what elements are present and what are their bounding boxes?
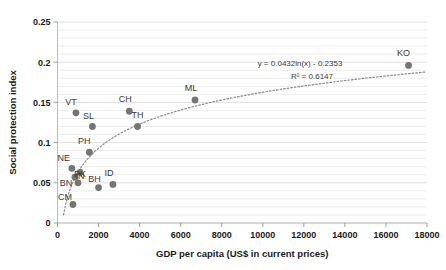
- data-point-label: CH: [119, 94, 132, 104]
- y-axis-title: Social protection index: [7, 70, 18, 175]
- y-axis-ticks: 00.050.10.150.20.25: [33, 17, 58, 228]
- data-point-label: BH: [88, 174, 101, 184]
- trendline-r2-label: R² = 0.6147: [291, 72, 334, 81]
- trendline-equation-label: y = 0.0432ln(x) - 0.2353: [258, 59, 343, 68]
- point-labels: CMPKBNINNEBHIDPHSLVTTHCHMLKO: [58, 48, 410, 201]
- data-point-label: ML: [185, 83, 198, 93]
- trendline: [64, 72, 426, 215]
- scatter-chart: 00.050.10.150.20.25 02000400060008000100…: [0, 0, 446, 270]
- y-tick-label: 0.05: [33, 178, 51, 188]
- x-tick-label: 0: [55, 230, 60, 240]
- data-point: [405, 62, 412, 69]
- x-tick-label: 4000: [130, 230, 150, 240]
- data-point-label: KO: [397, 48, 410, 58]
- x-tick-label: 10000: [250, 230, 275, 240]
- data-point: [73, 109, 80, 116]
- x-axis-title: GDP per capita (US$ in current prices): [156, 248, 328, 259]
- data-point-label: CM: [58, 192, 72, 202]
- data-point-label: NE: [58, 153, 71, 163]
- y-tick-label: 0.2: [38, 58, 51, 68]
- data-point-label: SL: [83, 111, 94, 121]
- x-tick-label: 16000: [373, 230, 398, 240]
- y-tick-label: 0.25: [33, 17, 51, 27]
- data-point-label: PH: [78, 136, 91, 146]
- chart-canvas: 00.050.10.150.20.25 02000400060008000100…: [0, 0, 446, 270]
- x-tick-label: 8000: [212, 230, 232, 240]
- x-tick-label: 6000: [171, 230, 191, 240]
- y-tick-label: 0.1: [38, 138, 51, 148]
- y-tick-label: 0: [45, 218, 50, 228]
- data-point: [69, 201, 76, 208]
- x-tick-label: 12000: [291, 230, 316, 240]
- x-tick-label: 18000: [414, 230, 439, 240]
- x-tick-label: 14000: [332, 230, 357, 240]
- data-point: [86, 149, 93, 156]
- data-point-label: IN: [76, 171, 85, 181]
- plot-frame: [58, 22, 428, 223]
- x-tick-label: 2000: [89, 230, 109, 240]
- data-point: [89, 123, 96, 130]
- x-axis-ticks: 0200040006000800010000120001400016000180…: [55, 223, 440, 240]
- data-point-label: BN: [60, 178, 73, 188]
- data-point-label: TH: [132, 110, 144, 120]
- data-point: [95, 184, 102, 191]
- data-point-label: ID: [104, 168, 114, 178]
- data-point: [192, 97, 199, 104]
- y-tick-label: 0.15: [33, 98, 51, 108]
- data-point: [110, 181, 117, 188]
- data-point: [134, 123, 141, 130]
- gridlines: [58, 22, 428, 223]
- data-point-label: VT: [65, 97, 77, 107]
